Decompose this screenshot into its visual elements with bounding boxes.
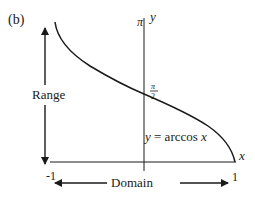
curve-label: y = arccos x [143,129,207,144]
y-axis-label: y [148,9,156,24]
range-label: Range [32,87,65,102]
x-tick-one: 1 [232,170,238,184]
domain-label: Domain [111,175,153,190]
x-tick-minus-one: -1 [46,169,56,183]
svg-text:π: π [151,82,156,91]
arccos-diagram: (b) Range x -1 1 π y π 2 y = arccos x Do… [0,0,255,206]
y-tick-pi: π [137,15,144,29]
x-axis-label: x [238,148,245,163]
panel-label: (b) [8,12,25,28]
